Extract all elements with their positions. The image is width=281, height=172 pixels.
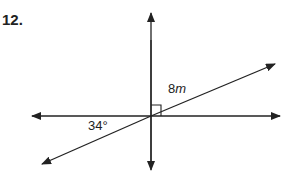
angle-label: 34° (88, 118, 108, 133)
segment-label: 8m (168, 81, 186, 96)
diagram (0, 0, 281, 172)
